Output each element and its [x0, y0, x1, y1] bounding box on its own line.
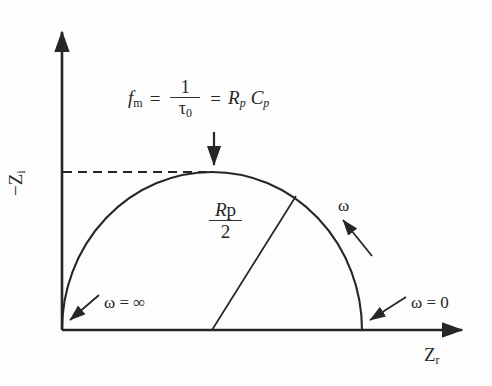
- formula-rhs: RpCp: [228, 88, 269, 109]
- x-axis-label: Zr: [424, 345, 440, 366]
- radius-rp-symbol: R: [215, 199, 227, 220]
- formula-fraction: 1 τ0: [170, 78, 200, 120]
- omega-direction-arrow: [343, 220, 372, 256]
- omega-direction-label: ω: [338, 197, 349, 214]
- formula-f-subscript: m: [133, 97, 142, 111]
- radius-fraction-numerator: Rp: [209, 200, 242, 220]
- formula-fraction-numerator: 1: [175, 78, 196, 97]
- formula-tau-symbol: τ: [179, 98, 186, 118]
- plot-canvas: [0, 0, 492, 386]
- characteristic-frequency-formula: fm = 1 τ0 = RpCp: [128, 78, 269, 120]
- omega-zero-label: ω = 0: [411, 294, 449, 311]
- x-axis-label-subscript: r: [436, 353, 440, 367]
- radius-value-label: Rp 2: [206, 200, 245, 241]
- omega-infinity-label: ω = ∞: [104, 294, 145, 311]
- y-axis-label: −Zi: [6, 170, 27, 196]
- radius-fraction: Rp 2: [209, 200, 242, 241]
- omega-infinity-arrow: [70, 295, 99, 320]
- formula-rp-subscript: p: [240, 97, 246, 111]
- formula-fraction-denominator: τ0: [173, 98, 198, 119]
- formula-equals-first: =: [150, 89, 161, 108]
- formula-rp-symbol: R: [228, 87, 240, 108]
- formula-equals-second: =: [210, 89, 221, 108]
- y-axis-label-main: −Z: [5, 174, 26, 196]
- formula-cp-subscript: p: [263, 97, 269, 111]
- formula-tau-subscript: 0: [186, 107, 192, 121]
- y-axis-label-subscript: i: [14, 170, 28, 173]
- formula-lhs: fm: [128, 88, 143, 109]
- radius-rp-subscript: p: [227, 199, 237, 220]
- radius-fraction-denominator: 2: [215, 221, 237, 241]
- formula-cp-symbol: C: [251, 87, 264, 108]
- x-axis-label-main: Z: [424, 344, 436, 365]
- nyquist-plot-figure: fm = 1 τ0 = RpCp Rp 2 −Zi Zr ω = ∞ ω = 0…: [0, 0, 492, 386]
- omega-zero-arrow: [370, 297, 406, 320]
